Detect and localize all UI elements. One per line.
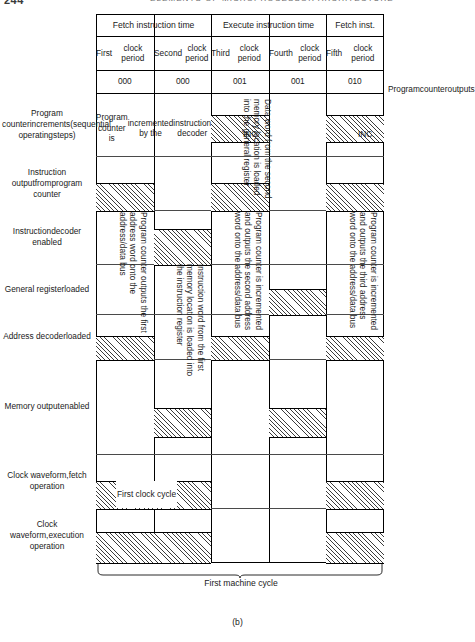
row-divider-1 xyxy=(96,156,384,157)
mem-out-pulse-c2 xyxy=(154,408,211,438)
instr-out-pulse-c5 xyxy=(326,183,384,212)
addr-dec-pulse-c5 xyxy=(326,336,384,361)
clock-period-header-1: Secondclock period xyxy=(154,36,212,70)
inc-label-c5: INC. xyxy=(358,129,375,139)
row-divider-6 xyxy=(96,454,384,455)
row-label-instruction-decoder-enabled: Instructiondecoder enabled xyxy=(2,226,92,248)
decoder-enabled-pulse-c2 xyxy=(154,229,211,266)
first-clock-cycle-label: First clock cycle xyxy=(116,481,177,508)
page-number: 244 xyxy=(4,0,24,6)
counter-value-4: 010 xyxy=(326,70,384,93)
row-label-instruction-output: Instruction outputfromprogram counter xyxy=(2,167,92,200)
annotation-pc-increment-second: Program counter is incrementedand output… xyxy=(233,212,265,330)
counter-value-2: 001 xyxy=(211,70,269,93)
row-label-general-register-loaded: General registerloaded xyxy=(2,284,92,295)
page-running-head: 244 ELEMENTS OF MICROPROCESSOR ARCHITECT… xyxy=(0,0,475,9)
pc-inc-pulse-c5 xyxy=(326,115,384,143)
annotation-pc-increment-third: Program counter is incrementedand output… xyxy=(348,212,380,330)
clock-period-header-4: Fifthclock period xyxy=(326,36,384,70)
machine-cycle-brace xyxy=(96,563,386,579)
running-head-title: ELEMENTS OF MICROPROCESSOR ARCHITECTURE xyxy=(150,0,394,3)
addr-dec-pulse-c1 xyxy=(96,336,154,361)
header-value-divider xyxy=(96,93,384,94)
annotation-instruction-word-first: Instruction word from the firstmemory lo… xyxy=(175,264,207,376)
row-label-pc-increments: Program counterincrements(sequential ope… xyxy=(2,108,92,141)
row-label-clock-execution: Clock waveform,execution operation xyxy=(2,519,92,552)
header-group-2: Fetch inst. xyxy=(326,14,384,36)
clock-period-header-0: Firstclock period xyxy=(96,36,154,70)
machine-cycle-caption: First machine cycle xyxy=(96,578,386,588)
annotation-data-word-second: Data word from the secondmemory location… xyxy=(242,99,274,199)
counter-value-0: 000 xyxy=(96,70,154,93)
clock-period-header-3: Fourthclock period xyxy=(269,36,327,70)
instr-out-pulse-c1 xyxy=(96,183,154,212)
clock-exec-pulse-c5 xyxy=(326,532,384,564)
figure-label: (b) xyxy=(0,617,475,627)
mem-out-pulse-c4 xyxy=(269,408,326,438)
timing-diagram: Fetch instruction timeExecute instructio… xyxy=(96,14,384,563)
header-group-0: Fetch instruction time xyxy=(96,14,211,36)
row-label-address-decoder-loaded: Address decoderloaded xyxy=(2,331,92,342)
addr-dec-pulse-c3 xyxy=(211,336,269,361)
row-label-clock-fetch: Clock waveform,fetch operation xyxy=(2,470,92,492)
clock-period-header-2: Thirdclock period xyxy=(211,36,269,70)
clock-fetch-pulse-c5 xyxy=(326,481,384,510)
clock-exec-pulse-c1c2 xyxy=(96,532,211,564)
counter-value-1: 000 xyxy=(154,70,212,93)
column-divider-2 xyxy=(211,14,212,563)
header-group-1: Execute instruction time xyxy=(211,14,326,36)
annotation-pc-incremented-by-decoder: Program counter isincremented by theinst… xyxy=(97,107,210,149)
program-counter-outputs-label: Programcounteroutputs xyxy=(388,84,470,95)
counter-value-3: 001 xyxy=(269,70,327,93)
annotation-pc-outputs-first: Program counter outputs the firstaddress… xyxy=(118,212,150,333)
gen-reg-loaded-pulse-c4 xyxy=(269,289,326,316)
row-label-memory-output-enabled: Memory outputenabled xyxy=(2,401,92,412)
